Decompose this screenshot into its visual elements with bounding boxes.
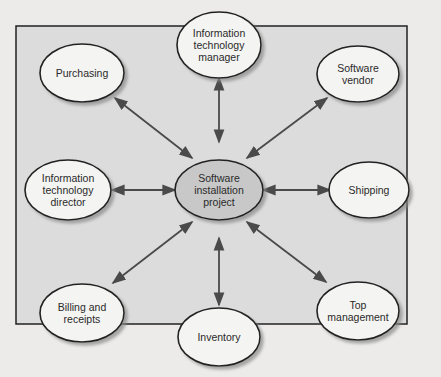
label-software-vendor: Softwarevendor xyxy=(317,60,399,88)
label-shipping: Shipping xyxy=(329,177,409,203)
label-purchasing: Purchasing xyxy=(40,60,124,86)
label-billing: Billing andreceipts xyxy=(40,299,124,327)
label-it-director: Informationtechnologydirector xyxy=(25,167,111,213)
label-inventory: Inventory xyxy=(178,324,260,350)
label-it-manager: Informationtechnologymanager xyxy=(177,22,261,68)
label-center: Softwareinstallationproject xyxy=(175,167,263,213)
label-top-management: Topmanagement xyxy=(317,297,399,325)
